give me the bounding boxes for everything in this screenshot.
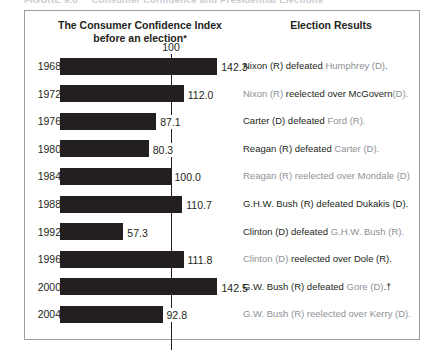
row-year-label: 1976 (29, 115, 61, 127)
election-result-text: Reagan (R) defeated Carter (D). (243, 143, 379, 154)
bar (60, 306, 163, 323)
result-loser-text: Gore (D) (347, 281, 384, 292)
row-year-label: 1980 (29, 143, 61, 155)
table-row: 1984100.0Reagan (R) reelected over Monda… (25, 165, 419, 193)
result-loser-text: Nixon (R) (243, 88, 283, 99)
bar-value-label: 111.8 (185, 253, 215, 267)
table-row: 199257.3Clinton (D) defeated G.H.W. Bush… (25, 221, 419, 249)
election-result-text: Nixon (R) reelected over McGovern(D). (243, 88, 408, 99)
bar-value-label: 87.1 (157, 115, 182, 129)
result-winner-text: Carter (D) defeated (243, 115, 327, 126)
figure-caption-text: Consumer Confidence and Presidential Ele… (92, 0, 323, 5)
election-result-text: Nixon (R) defeated Humphrey (D). (243, 60, 388, 71)
election-result-text: G.W. Bush (R) reelected over Kerry (D). (243, 308, 411, 319)
result-loser-text: Clinton (D) (243, 253, 288, 264)
result-loser-text: G.H.W. Bush (R). (331, 226, 404, 237)
cci-header-line1: The Consumer Confidence Index (58, 19, 222, 31)
election-result-text: G.H.W. Bush (R) defeated Dukakis (D). (243, 198, 408, 209)
reference-line-label: 100 (156, 41, 186, 53)
row-year-label: 1984 (29, 170, 61, 182)
table-row: 2000142.5G.W. Bush (R) defeated Gore (D)… (25, 276, 419, 304)
chart-frame: The Consumer Confidence Index before an … (24, 10, 420, 340)
election-result-text: Carter (D) defeated Ford (R). (243, 115, 365, 126)
result-winner-text: Nixon (R) defeated (243, 60, 325, 71)
result-loser-text: Ford (R). (327, 115, 365, 126)
result-winner-text: reelected over McGovern (283, 88, 392, 99)
table-row: 200492.8G.W. Bush (R) reelected over Ker… (25, 303, 419, 331)
election-result-text: Clinton (D) defeated G.H.W. Bush (R). (243, 226, 404, 237)
election-result-text: G.W. Bush (R) defeated Gore (D).† (243, 281, 391, 292)
result-winner-text: Clinton (D) defeated (243, 226, 331, 237)
table-row: 197687.1Carter (D) defeated Ford (R). (25, 110, 419, 138)
bar (60, 251, 184, 268)
bar-value-label: 100.0 (172, 170, 203, 184)
figure-number: FIGURE 9.8 (24, 0, 78, 5)
result-loser-text: Humphrey (D) (325, 60, 385, 71)
row-year-label: 2004 (29, 308, 61, 320)
row-year-label: 1988 (29, 198, 61, 210)
result-winner-text: . (385, 60, 388, 71)
row-year-label: 1968 (29, 60, 61, 72)
bar-value-label: 80.3 (150, 143, 175, 157)
bar (60, 58, 217, 75)
row-year-label: 1996 (29, 253, 61, 265)
row-year-label: 2000 (29, 281, 61, 293)
result-loser-text: G.W. Bush (R) reelected over Kerry (D). (243, 308, 411, 319)
table-row: 198080.3Reagan (R) defeated Carter (D). (25, 138, 419, 166)
bar-value-label: 110.7 (183, 198, 214, 212)
bar-value-label: 92.8 (164, 308, 189, 322)
bar (60, 140, 149, 157)
result-winner-text: .† (383, 281, 391, 292)
election-result-text: Clinton (D) reelected over Dole (R). (243, 253, 392, 264)
bar (60, 85, 184, 102)
result-winner-text: G.H.W. Bush (R) defeated Dukakis (D). (243, 198, 408, 209)
bar (60, 168, 171, 185)
result-loser-text: Reagan (R) reelected over Mondale (D) (243, 170, 410, 181)
row-year-label: 1972 (29, 88, 61, 100)
plot-area: 100 1968142.3Nixon (R) defeated Humphrey… (25, 41, 419, 339)
result-loser-text: Carter (D). (334, 143, 379, 154)
table-row: 1996111.8Clinton (D) reelected over Dole… (25, 248, 419, 276)
table-row: 1988110.7G.H.W. Bush (R) defeated Dukaki… (25, 193, 419, 221)
bar (60, 223, 123, 240)
table-row: 1968142.3Nixon (R) defeated Humphrey (D)… (25, 55, 419, 83)
results-column-header: Election Results (251, 19, 411, 31)
result-loser-text: (D). (392, 88, 408, 99)
figure-caption: FIGURE 9.8Consumer Confidence and Presid… (24, 0, 424, 5)
row-year-label: 1992 (29, 226, 61, 238)
bar-value-label: 57.3 (124, 226, 149, 240)
bar (60, 113, 156, 130)
bar (60, 278, 217, 295)
election-result-text: Reagan (R) reelected over Mondale (D) (243, 170, 410, 181)
result-winner-text: Reagan (R) defeated (243, 143, 334, 154)
table-row: 1972112.0Nixon (R) reelected over McGove… (25, 83, 419, 111)
bar-value-label: 112.0 (185, 88, 216, 102)
bar (60, 196, 182, 213)
result-winner-text: reelected over Dole (R). (288, 253, 391, 264)
result-winner-text: G.W. Bush (R) defeated (243, 281, 347, 292)
